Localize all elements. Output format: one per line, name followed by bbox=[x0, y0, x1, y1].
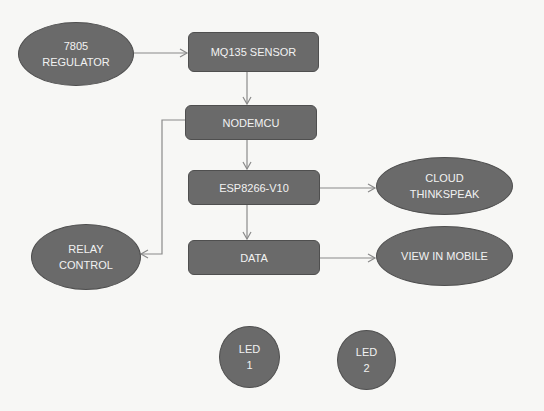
node-label: MQ135 SENSOR bbox=[211, 44, 297, 60]
node-label: LED bbox=[356, 344, 377, 360]
node-label: 2 bbox=[363, 360, 369, 376]
node-esp8266: ESP8266-V10 bbox=[188, 170, 320, 205]
node-relay-control: RELAY CONTROL bbox=[31, 224, 141, 290]
node-label: VIEW IN MOBILE bbox=[401, 248, 488, 264]
node-cloud-thinkspeak: CLOUD THINKSPEAK bbox=[376, 157, 513, 215]
node-mq135-sensor: MQ135 SENSOR bbox=[188, 32, 319, 72]
node-led-2: LED 2 bbox=[337, 330, 396, 390]
node-label: 1 bbox=[246, 357, 252, 373]
node-label: THINKSPEAK bbox=[410, 186, 480, 202]
node-data: DATA bbox=[188, 240, 320, 275]
node-7805-regulator: 7805 REGULATOR bbox=[18, 22, 134, 86]
block-diagram: 7805 REGULATOR MQ135 SENSOR NODEMCU ESP8… bbox=[0, 0, 544, 411]
node-label: LED bbox=[239, 341, 260, 357]
node-label: 7805 bbox=[64, 38, 88, 54]
node-label: ESP8266-V10 bbox=[219, 180, 289, 196]
node-label: NODEMCU bbox=[223, 115, 280, 131]
node-led-1: LED 1 bbox=[219, 326, 280, 388]
node-nodemcu: NODEMCU bbox=[185, 105, 317, 140]
node-label: RELAY bbox=[68, 241, 103, 257]
node-view-in-mobile: VIEW IN MOBILE bbox=[376, 226, 513, 286]
node-label: CLOUD bbox=[425, 170, 464, 186]
edge-nodemcu-relay bbox=[141, 120, 185, 254]
node-label: DATA bbox=[240, 250, 268, 266]
node-label: CONTROL bbox=[59, 257, 113, 273]
node-label: REGULATOR bbox=[42, 54, 109, 70]
